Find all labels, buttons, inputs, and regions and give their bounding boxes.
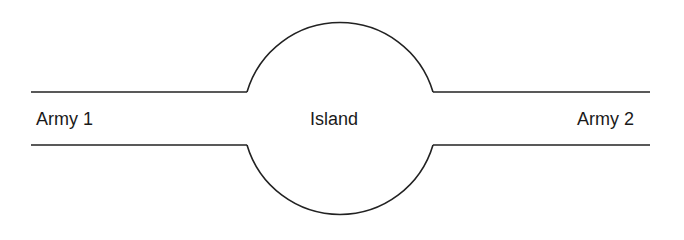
island-label: Island <box>310 110 358 128</box>
island-upper-arc <box>247 23 433 92</box>
army-2-label: Army 2 <box>577 110 634 128</box>
island-lower-arc <box>247 145 433 214</box>
army-1-label: Army 1 <box>36 110 93 128</box>
